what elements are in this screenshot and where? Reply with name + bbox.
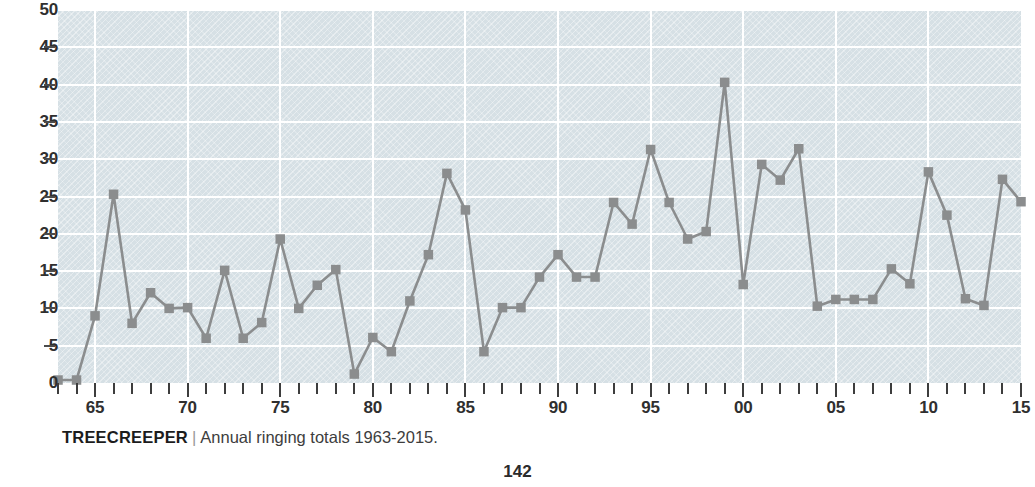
x-axis-tick bbox=[539, 383, 541, 394]
data-point-marker bbox=[850, 295, 860, 305]
data-point-marker bbox=[424, 250, 434, 260]
x-axis-tick-label: 00 bbox=[734, 398, 753, 418]
data-point-marker bbox=[498, 303, 508, 313]
x-axis-tick bbox=[57, 383, 59, 394]
data-point-marker bbox=[998, 175, 1008, 185]
data-point-marker bbox=[590, 272, 600, 282]
x-axis-tick bbox=[316, 383, 318, 394]
data-point-marker bbox=[183, 303, 193, 313]
y-axis-tick-mark bbox=[44, 158, 55, 160]
x-axis: 6570758085909500051015 bbox=[0, 383, 1035, 428]
x-axis-tick bbox=[890, 383, 892, 394]
y-axis-tick-mark bbox=[44, 345, 55, 347]
x-axis-tick bbox=[427, 383, 429, 394]
caption-species: TREECREEPER bbox=[62, 428, 188, 446]
data-point-marker bbox=[238, 333, 248, 343]
x-axis-tick bbox=[705, 383, 707, 394]
data-point-marker bbox=[683, 234, 693, 244]
x-axis-tick bbox=[668, 383, 670, 394]
y-axis-tick-mark bbox=[44, 196, 55, 198]
data-point-marker bbox=[553, 250, 563, 260]
data-point-marker bbox=[461, 205, 471, 215]
x-axis-tick bbox=[298, 383, 300, 394]
x-axis-tick-label: 80 bbox=[364, 398, 383, 418]
data-point-marker bbox=[572, 272, 582, 282]
x-axis-tick bbox=[761, 383, 763, 394]
x-axis-tick-label: 65 bbox=[86, 398, 105, 418]
x-axis-tick bbox=[131, 383, 133, 394]
y-axis-tick-label: 50 bbox=[24, 0, 58, 20]
data-point-marker bbox=[516, 303, 526, 313]
x-axis-tick bbox=[779, 383, 781, 394]
x-axis-tick bbox=[150, 383, 152, 394]
data-point-marker bbox=[275, 234, 285, 244]
ringing-totals-figure: 05101520253035404550 6570758085909500051… bbox=[0, 0, 1035, 487]
x-axis-tick bbox=[724, 383, 726, 394]
data-point-marker bbox=[720, 78, 730, 88]
x-axis-tick bbox=[687, 383, 689, 394]
x-axis-tick bbox=[613, 383, 615, 394]
x-axis-tick bbox=[1001, 383, 1003, 394]
data-point-marker bbox=[776, 175, 786, 185]
data-point-marker bbox=[924, 167, 934, 177]
x-axis-tick bbox=[983, 383, 985, 394]
data-point-marker bbox=[887, 264, 897, 274]
data-point-marker bbox=[868, 295, 878, 305]
x-axis-tick bbox=[446, 383, 448, 394]
data-point-marker bbox=[331, 265, 341, 275]
data-point-marker bbox=[757, 160, 767, 170]
data-point-marker bbox=[609, 198, 619, 208]
x-axis-tick-label: 05 bbox=[827, 398, 846, 418]
x-axis-tick-label: 70 bbox=[178, 398, 197, 418]
x-axis-major-tick bbox=[927, 383, 929, 397]
x-axis-major-tick bbox=[557, 383, 559, 397]
x-axis-tick bbox=[872, 383, 874, 394]
data-point-marker bbox=[387, 347, 397, 357]
x-axis-tick bbox=[964, 383, 966, 394]
x-axis-tick bbox=[631, 383, 633, 394]
caption-separator: | bbox=[188, 428, 200, 446]
data-point-marker bbox=[90, 311, 100, 321]
x-axis-tick bbox=[501, 383, 503, 394]
data-point-marker bbox=[738, 280, 748, 290]
data-point-marker bbox=[294, 304, 304, 314]
data-point-marker bbox=[905, 279, 915, 289]
y-axis-tick-mark bbox=[44, 270, 55, 272]
x-axis-tick bbox=[909, 383, 911, 394]
data-point-marker bbox=[1016, 197, 1026, 207]
x-axis-tick bbox=[483, 383, 485, 394]
data-point-marker bbox=[627, 219, 637, 229]
x-axis-tick bbox=[242, 383, 244, 394]
data-point-marker bbox=[535, 272, 545, 282]
x-axis-tick bbox=[224, 383, 226, 394]
data-point-marker bbox=[479, 347, 489, 357]
x-axis-tick bbox=[261, 383, 263, 394]
x-axis-tick-label: 10 bbox=[919, 398, 938, 418]
y-axis-tick-mark bbox=[44, 84, 55, 86]
y-axis-tick-mark bbox=[44, 46, 55, 48]
x-axis-tick bbox=[594, 383, 596, 394]
data-point-marker bbox=[664, 198, 674, 208]
x-axis-tick bbox=[816, 383, 818, 394]
data-point-marker bbox=[961, 294, 971, 304]
data-point-marker bbox=[257, 318, 267, 328]
page-number: 142 bbox=[0, 462, 1035, 482]
data-point-marker bbox=[942, 210, 952, 220]
data-point-marker bbox=[164, 304, 174, 314]
x-axis-tick bbox=[520, 383, 522, 394]
x-axis-tick bbox=[113, 383, 115, 394]
data-point-marker bbox=[831, 295, 841, 305]
caption-description: Annual ringing totals 1963-2015. bbox=[200, 428, 438, 446]
x-axis-tick bbox=[853, 383, 855, 394]
x-axis-tick bbox=[335, 383, 337, 394]
x-axis-tick-label: 85 bbox=[456, 398, 475, 418]
x-axis-tick bbox=[76, 383, 78, 394]
x-axis-major-tick bbox=[742, 383, 744, 397]
x-axis-tick bbox=[353, 383, 355, 394]
data-point-marker bbox=[813, 301, 823, 311]
data-point-marker bbox=[350, 369, 360, 379]
data-point-marker bbox=[109, 190, 119, 200]
x-axis-tick-label: 90 bbox=[549, 398, 568, 418]
data-point-marker bbox=[146, 288, 156, 298]
y-axis-tick-mark bbox=[44, 233, 55, 235]
